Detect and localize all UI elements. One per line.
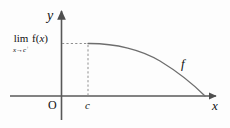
limit-function-close: ) [44, 32, 48, 44]
point-c-label: c [85, 100, 90, 111]
limit-operator-label: lim [14, 33, 29, 44]
y-axis-label: y [47, 9, 53, 23]
limit-operator-stack: lim x→c+ [13, 33, 29, 54]
limit-graph-figure: y x O c f lim x→c+ f(x) [0, 0, 230, 128]
function-curve-f [88, 43, 205, 96]
x-axis-label: x [212, 99, 218, 112]
limit-function-expression: f(x) [32, 33, 48, 44]
curve-label-f: f [181, 57, 185, 70]
origin-label: O [48, 99, 57, 111]
limit-expression: lim x→c+ f(x) [13, 33, 48, 54]
limit-subscript-side: + [26, 45, 29, 50]
limit-subscript: x→c+ [13, 45, 29, 54]
graph-canvas [0, 0, 230, 128]
